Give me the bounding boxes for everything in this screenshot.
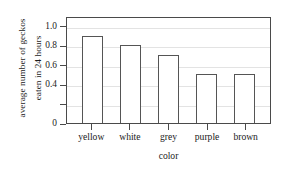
y-axis-title-line-1: average number of geckos [17, 18, 27, 117]
y-axis-tick [60, 85, 66, 86]
y-axis-tick [60, 26, 66, 27]
x-axis-tick [168, 124, 169, 130]
bar-chart: average number of geckos eaten in 24 hou… [0, 0, 289, 175]
bar-slot [188, 18, 226, 123]
bar-slot [73, 18, 111, 123]
x-axis-tick [245, 124, 246, 130]
bar-yellow[interactable] [82, 36, 103, 124]
y-axis-label: 0.4 [33, 80, 57, 89]
x-axis-tick [207, 124, 208, 130]
bar-slot [149, 18, 187, 123]
y-axis-label: 0.8 [33, 41, 57, 50]
plot-area [66, 17, 271, 124]
bar-slot [226, 18, 264, 123]
x-axis-label-brown: brown [226, 131, 265, 142]
x-axis-title: color [66, 150, 271, 161]
y-axis-label: 0.6 [33, 61, 57, 70]
y-axis-label: 0 [33, 119, 57, 128]
x-axis-label-white: white [111, 131, 150, 142]
bar-brown[interactable] [234, 74, 255, 123]
y-axis-label: 1.0 [33, 22, 57, 31]
y-axis-tick [60, 104, 66, 105]
y-axis-tick [60, 124, 66, 125]
x-axis-tick [129, 124, 130, 130]
bar-purple[interactable] [196, 74, 217, 123]
x-axis-label-yellow: yellow [72, 131, 111, 142]
bar-slot [111, 18, 149, 123]
x-axis-label-grey: grey [149, 131, 188, 142]
y-axis-tick [60, 46, 66, 47]
bar-series [67, 18, 270, 123]
x-axis-labels: yellowwhitegreypurplebrown [66, 131, 271, 142]
x-axis-tick [91, 124, 92, 130]
x-axis-label-purple: purple [188, 131, 227, 142]
bar-white[interactable] [120, 45, 141, 123]
bar-grey[interactable] [158, 55, 179, 123]
y-axis-tick [60, 65, 66, 66]
